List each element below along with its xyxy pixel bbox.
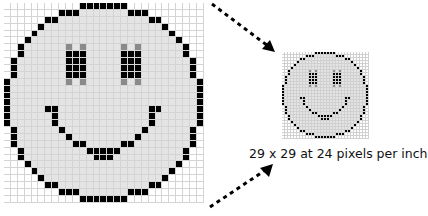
- arrow-to-caption-bottom: [210, 164, 273, 207]
- caption-resolution: 29 x 29 at 24 pixels per inch: [249, 146, 428, 161]
- arrow-to-small-image-top: [212, 4, 275, 52]
